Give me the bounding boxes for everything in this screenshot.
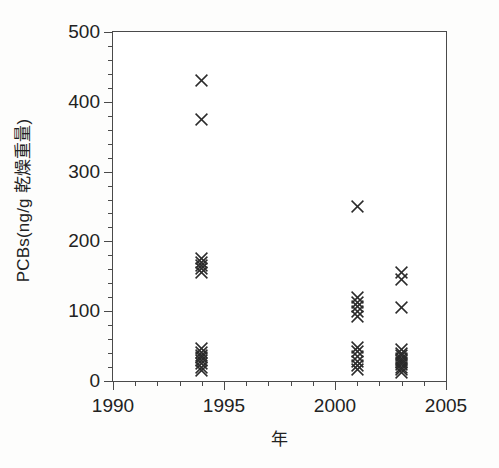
- plot-area: 0100200300400500 1990199520002005: [112, 31, 447, 382]
- data-point-marker: [350, 362, 365, 377]
- data-point-marker: [194, 261, 209, 276]
- x-axis-minor-tick: [246, 381, 247, 386]
- y-axis-major-tick: [104, 32, 113, 33]
- y-axis-minor-tick: [108, 186, 113, 187]
- x-axis-title: 年: [112, 425, 447, 450]
- data-point-marker: [194, 265, 209, 280]
- y-axis-major-tick: [104, 381, 113, 382]
- data-point-marker: [394, 346, 409, 361]
- y-axis-tick-label: 300: [68, 161, 100, 183]
- y-axis-minor-tick: [108, 297, 113, 298]
- data-point-marker: [194, 258, 209, 273]
- x-axis-minor-tick: [135, 381, 136, 386]
- data-point-marker: [350, 295, 365, 310]
- data-point-marker: [194, 348, 209, 363]
- x-axis-minor-tick: [180, 381, 181, 386]
- y-axis-minor-tick: [108, 325, 113, 326]
- x-axis-minor-tick: [291, 381, 292, 386]
- y-axis-minor-tick: [108, 269, 113, 270]
- data-point-marker: [394, 300, 409, 315]
- data-point-marker: [350, 299, 365, 314]
- data-point-marker: [350, 340, 365, 355]
- data-point-marker: [194, 353, 209, 368]
- y-axis-minor-tick: [108, 46, 113, 47]
- y-axis-minor-tick: [108, 158, 113, 159]
- x-axis-minor-tick: [379, 381, 380, 386]
- y-axis-title-container: PCBs(ng/g 乾燥重量): [0, 0, 44, 400]
- y-axis-major-tick: [104, 241, 113, 242]
- data-point-marker: [394, 353, 409, 368]
- data-point-marker: [394, 357, 409, 372]
- data-point-marker: [194, 255, 209, 270]
- x-axis-minor-tick: [402, 381, 403, 386]
- x-axis-minor-tick: [202, 381, 203, 386]
- data-point-marker: [350, 354, 365, 369]
- y-axis-minor-tick: [108, 130, 113, 131]
- data-point-marker: [194, 363, 209, 378]
- y-axis-title: PCBs(ng/g 乾燥重量): [10, 118, 35, 282]
- data-point-marker: [394, 355, 409, 370]
- data-point-marker: [194, 350, 209, 365]
- y-axis-minor-tick: [108, 200, 113, 201]
- y-axis-tick-label: 0: [89, 370, 100, 392]
- y-axis-minor-tick: [108, 339, 113, 340]
- x-axis-major-tick: [335, 381, 336, 390]
- data-point-marker: [350, 358, 365, 373]
- x-axis-tick-label: 1990: [92, 395, 134, 417]
- x-axis-tick-label: 1995: [203, 395, 245, 417]
- data-point-marker: [394, 351, 409, 366]
- data-point-marker: [194, 356, 209, 371]
- data-point-marker: [194, 345, 209, 360]
- data-point-marker: [350, 199, 365, 214]
- data-point-marker: [350, 309, 365, 324]
- y-axis-tick-label: 100: [68, 300, 100, 322]
- data-point-marker: [394, 272, 409, 287]
- scatter-chart-figure: PCBs(ng/g 乾燥重量) 0100200300400500 1990199…: [0, 0, 499, 468]
- data-point-marker: [394, 365, 409, 380]
- y-axis-tick-label: 400: [68, 91, 100, 113]
- data-point-marker: [194, 341, 209, 356]
- x-axis-minor-tick: [424, 381, 425, 386]
- y-axis-major-tick: [104, 102, 113, 103]
- y-axis-minor-tick: [108, 227, 113, 228]
- x-axis-major-tick: [446, 381, 447, 390]
- y-axis-minor-tick: [108, 367, 113, 368]
- x-axis-tick-label: 2005: [425, 395, 467, 417]
- data-point-marker: [194, 251, 209, 266]
- y-axis-minor-tick: [108, 88, 113, 89]
- x-axis-tick-label: 2000: [314, 395, 356, 417]
- y-axis-minor-tick: [108, 283, 113, 284]
- x-axis-minor-tick: [313, 381, 314, 386]
- data-point-marker: [350, 344, 365, 359]
- data-point-marker: [194, 360, 209, 375]
- data-point-marker: [350, 304, 365, 319]
- y-axis-minor-tick: [108, 255, 113, 256]
- y-axis-minor-tick: [108, 144, 113, 145]
- x-axis-minor-tick: [268, 381, 269, 386]
- data-point-marker: [394, 265, 409, 280]
- data-point-marker: [194, 73, 209, 88]
- y-axis-minor-tick: [108, 353, 113, 354]
- y-axis-major-tick: [104, 172, 113, 173]
- x-axis-minor-tick: [357, 381, 358, 386]
- data-point-marker: [394, 342, 409, 357]
- y-axis-minor-tick: [108, 60, 113, 61]
- x-axis-major-tick: [113, 381, 114, 390]
- data-point-marker: [350, 349, 365, 364]
- data-point-marker: [394, 360, 409, 375]
- data-point-marker: [350, 290, 365, 305]
- y-axis-minor-tick: [108, 74, 113, 75]
- x-axis-major-tick: [224, 381, 225, 390]
- x-axis-minor-tick: [157, 381, 158, 386]
- y-axis-major-tick: [104, 311, 113, 312]
- y-axis-tick-label: 200: [68, 230, 100, 252]
- data-point-marker: [394, 348, 409, 363]
- data-point-marker: [194, 112, 209, 127]
- y-axis-tick-label: 500: [68, 21, 100, 43]
- y-axis-minor-tick: [108, 213, 113, 214]
- data-point-marker: [394, 362, 409, 377]
- y-axis-minor-tick: [108, 116, 113, 117]
